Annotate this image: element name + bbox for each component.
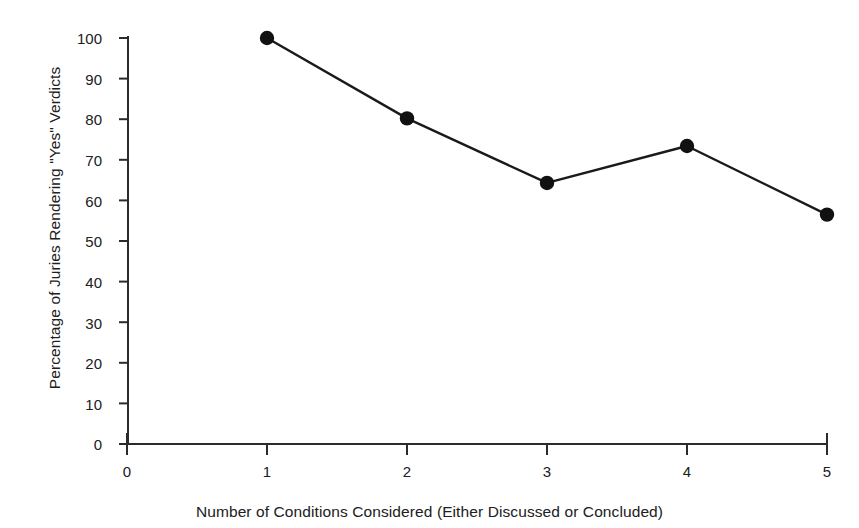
data-point-x2 <box>400 111 414 125</box>
series-markers <box>260 31 834 222</box>
y-axis-ticks <box>119 38 128 444</box>
data-point-x3 <box>540 176 554 190</box>
data-point-x5 <box>820 207 834 221</box>
data-point-x4 <box>680 139 694 153</box>
chart-figure: Percentage of Juries Rendering "Yes" Ver… <box>0 0 859 528</box>
data-point-x1 <box>260 31 274 45</box>
plot-svg <box>0 0 859 528</box>
